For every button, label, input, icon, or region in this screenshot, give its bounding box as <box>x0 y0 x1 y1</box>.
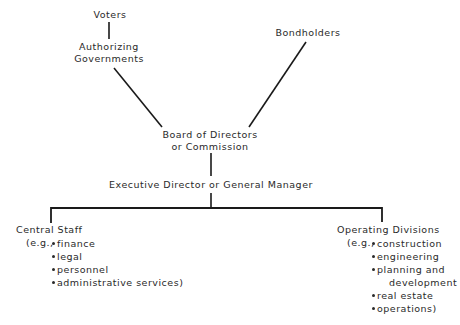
node-central-staff-title: Central Staff <box>16 224 82 236</box>
governments-to-board-line <box>114 68 162 127</box>
bullet-icon <box>372 307 375 310</box>
node-authorizing-governments: Authorizing Governments <box>74 41 144 65</box>
bullet-icon <box>372 268 375 271</box>
list-item-continuation: development <box>372 276 457 289</box>
node-board-line2: or Commission <box>162 141 257 153</box>
operating-divisions-list: construction engineering planning and de… <box>372 237 457 315</box>
list-item: planning and <box>372 263 457 276</box>
operating-divisions-prefix: (e.g., <box>347 237 375 249</box>
bullet-icon <box>372 255 375 258</box>
list-item: administrative services) <box>52 276 183 289</box>
node-authorizing-governments-line1: Authorizing <box>74 41 144 53</box>
list-item: construction <box>372 237 457 250</box>
list-item: engineering <box>372 250 457 263</box>
node-bondholders: Bondholders <box>275 27 340 39</box>
node-board-line1: Board of Directors <box>162 129 257 141</box>
bullet-icon <box>52 281 55 284</box>
node-operating-divisions-title: Operating Divisions <box>337 224 440 236</box>
central-staff-prefix: (e.g., <box>26 237 54 249</box>
list-item: personnel <box>52 263 183 276</box>
bullet-icon <box>372 294 375 297</box>
list-item: legal <box>52 250 183 263</box>
bullet-icon <box>52 242 55 245</box>
list-item: finance <box>52 237 183 250</box>
bullet-icon <box>372 242 375 245</box>
node-board: Board of Directors or Commission <box>162 129 257 153</box>
bullet-icon <box>52 268 55 271</box>
branch-bar <box>51 208 382 223</box>
list-item: operations) <box>372 302 457 315</box>
list-item: real estate <box>372 289 457 302</box>
central-staff-list: finance legal personnel administrative s… <box>52 237 183 289</box>
bondholders-to-board-line <box>249 42 306 127</box>
node-executive-director: Executive Director or General Manager <box>109 179 313 191</box>
bullet-icon <box>52 255 55 258</box>
node-voters: Voters <box>94 9 127 21</box>
node-authorizing-governments-line2: Governments <box>74 53 144 65</box>
